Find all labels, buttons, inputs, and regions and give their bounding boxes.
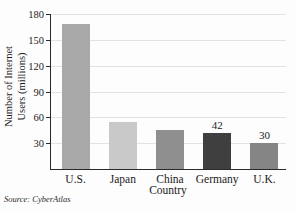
x-axis-line xyxy=(50,169,286,170)
gridline xyxy=(51,14,286,15)
bar-value-label: 42 xyxy=(212,119,223,131)
bar xyxy=(156,130,184,169)
y-axis-tick-label: 30 xyxy=(34,138,45,149)
y-axis-tick xyxy=(46,14,51,15)
y-axis-tick-label: 120 xyxy=(28,60,44,71)
y-axis-tick-label: 150 xyxy=(28,34,44,45)
y-axis-title-line-2: Users (millions) xyxy=(16,45,29,126)
source-label: Source: xyxy=(4,194,30,204)
source-note: Source: CyberAtlas xyxy=(4,194,71,204)
y-axis-tick xyxy=(46,143,51,144)
y-axis-tick-label: 180 xyxy=(28,9,44,20)
bar: 42 xyxy=(203,133,231,169)
y-axis-tick-label: 60 xyxy=(34,112,45,123)
y-axis-tick xyxy=(46,117,51,118)
bar: 30 xyxy=(250,143,278,169)
bar-value-label: 30 xyxy=(259,129,270,141)
y-axis-title: Number of Internet Users (millions) xyxy=(0,0,32,172)
y-axis-tick-label: 90 xyxy=(34,86,45,97)
bar-chart-figure: Number of Internet Users (millions) 1801… xyxy=(0,0,296,210)
y-axis-tick xyxy=(46,40,51,41)
plot-area: 180150120906030 4230 U.S.JapanChinaGerma… xyxy=(50,14,286,170)
bar xyxy=(62,24,90,169)
bar xyxy=(109,122,137,169)
x-axis-title: Country xyxy=(50,184,286,196)
y-axis-tick xyxy=(46,92,51,93)
y-axis-tick xyxy=(46,66,51,67)
y-axis-title-line-1: Number of Internet xyxy=(4,45,17,126)
source-name: CyberAtlas xyxy=(32,194,70,204)
